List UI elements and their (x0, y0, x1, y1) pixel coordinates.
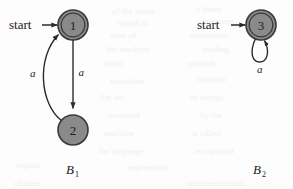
state-node-3[interactable]: 3 (246, 10, 276, 40)
start-label-b1: start (9, 17, 32, 32)
finite-automata-figure: start 1 a a 2 B 1 (0, 0, 293, 189)
state-node-1[interactable]: 1 (58, 10, 88, 40)
caption-b2-letter: B (253, 162, 261, 177)
transition-3-self-loop-path (252, 39, 267, 63)
caption-b1: B 1 (66, 162, 79, 179)
state-2-label: 2 (70, 123, 77, 138)
start-label-b2: start (197, 17, 220, 32)
caption-b2: B 2 (253, 162, 266, 179)
automaton-b2: start a 3 B 2 (197, 10, 276, 179)
transition-1-to-2[interactable]: a (73, 40, 85, 109)
transition-2-to-1[interactable]: a (30, 35, 62, 121)
transition-3-self-loop[interactable]: a (252, 39, 267, 76)
transition-1-to-2-label: a (79, 66, 85, 78)
caption-b1-subscript: 1 (75, 170, 79, 179)
state-1-label: 1 (70, 18, 77, 33)
state-3-label: 3 (258, 18, 265, 33)
transition-2-to-1-curve (43, 35, 61, 121)
automaton-b1: start 1 a a 2 B 1 (9, 10, 88, 179)
transition-2-to-1-label: a (30, 67, 36, 79)
caption-b2-subscript: 2 (262, 170, 266, 179)
start-arrow-b1: start (9, 17, 58, 32)
transition-3-self-loop-label: a (257, 63, 263, 75)
start-arrow-b2: start (197, 17, 246, 32)
state-node-2[interactable]: 2 (58, 115, 88, 145)
caption-b1-letter: B (66, 162, 74, 177)
